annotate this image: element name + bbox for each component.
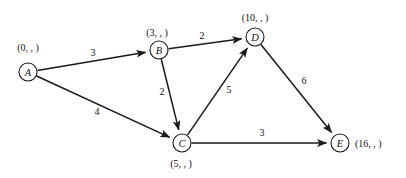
edge-weight-b-c: 2	[160, 86, 165, 97]
edge-d-to-e	[261, 44, 332, 132]
node-label-e: E	[336, 138, 344, 149]
edge-weight-d-e: 6	[302, 75, 307, 86]
labels-layer: 3422536(0, , )(3, , )(5, , )(10, , )(16,…	[17, 12, 382, 170]
edge-weight-b-d: 2	[200, 30, 205, 41]
edge-c-to-d	[187, 48, 247, 135]
node-label-b: B	[156, 45, 163, 56]
edge-weight-a-b: 3	[91, 47, 96, 58]
node-tuple-d: (10, , )	[242, 12, 269, 24]
node-tuple-a: (0, , )	[17, 42, 39, 54]
edge-b-to-d	[168, 39, 241, 49]
node-label-a: A	[24, 67, 32, 78]
node-label-d: D	[250, 32, 259, 43]
edges-layer	[37, 39, 332, 143]
node-tuple-c: (5, , )	[170, 158, 192, 170]
node-tuple-b: (3, , )	[146, 27, 168, 39]
graph-canvas: ABCDE 3422536(0, , )(3, , )(5, , )(10, ,…	[0, 0, 406, 178]
graph-diagram: ABCDE 3422536(0, , )(3, , )(5, , )(10, ,…	[0, 0, 406, 178]
node-label-c: C	[178, 138, 186, 149]
edge-weight-c-e: 3	[260, 127, 265, 138]
edge-weight-a-c: 4	[95, 106, 100, 117]
edge-a-to-c	[37, 76, 170, 137]
node-tuple-e: (16, , )	[355, 138, 382, 150]
edge-weight-c-d: 5	[227, 84, 232, 95]
